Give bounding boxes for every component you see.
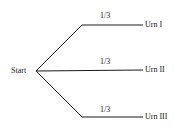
branch-probability-1: 1/3	[100, 11, 110, 20]
branch-probability-3: 1/3	[100, 105, 110, 114]
branch-line-urn-2	[36, 70, 143, 71]
branch-line-urn-1	[36, 25, 143, 71]
leaf-node-urn-3: Urn III	[145, 112, 167, 121]
branch-probability-2: 1/3	[100, 57, 110, 66]
branch-line-urn-3	[36, 71, 143, 117]
root-node-label: Start	[11, 66, 26, 75]
leaf-node-urn-2: Urn II	[145, 65, 165, 74]
leaf-node-urn-1: Urn I	[145, 20, 162, 29]
